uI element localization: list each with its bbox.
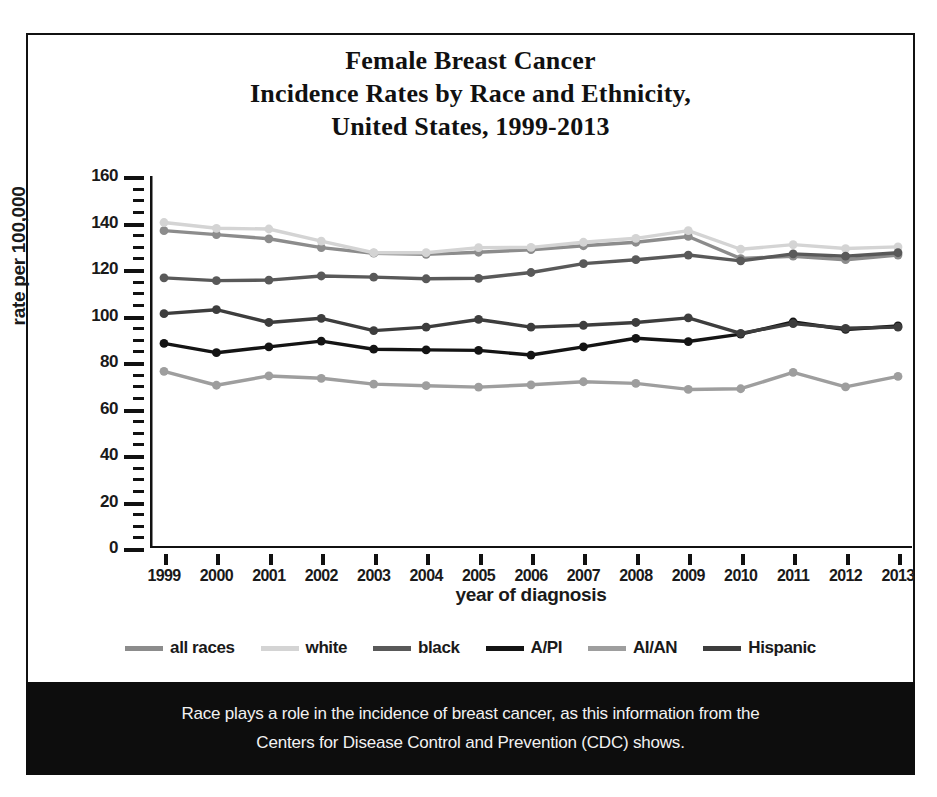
- x-tick-label: 2011: [777, 567, 809, 585]
- data-point: [317, 374, 326, 383]
- data-point: [474, 346, 483, 355]
- x-tick-mark: [374, 554, 378, 565]
- infographic-panel: Female Breast Cancer Incidence Rates by …: [0, 0, 937, 797]
- data-point: [579, 342, 588, 351]
- plot-area: [150, 176, 912, 548]
- x-tick-label: 2002: [305, 567, 338, 585]
- data-point: [684, 251, 693, 260]
- data-point: [684, 385, 693, 394]
- data-point: [631, 255, 640, 264]
- legend-label: Hispanic: [748, 638, 816, 658]
- data-point: [160, 273, 169, 282]
- legend-item-hispanic[interactable]: Hispanic: [703, 638, 816, 658]
- data-point: [736, 329, 745, 338]
- data-point: [789, 249, 798, 258]
- data-point: [684, 313, 693, 322]
- legend-swatch: [703, 646, 741, 651]
- data-point: [160, 218, 169, 227]
- y-tick-major: [124, 409, 144, 413]
- x-tick-mark: [164, 554, 168, 565]
- y-tick-minor: [133, 490, 144, 493]
- data-point: [369, 326, 378, 335]
- legend-item-a-pi[interactable]: A/PI: [486, 638, 562, 658]
- x-tick-mark: [479, 554, 483, 565]
- data-point: [579, 259, 588, 268]
- y-tick-major: [124, 502, 144, 506]
- legend-swatch: [373, 646, 411, 651]
- y-tick-minor: [133, 292, 144, 295]
- y-tick-minor: [133, 525, 144, 528]
- x-tick-mark: [321, 554, 325, 565]
- legend-label: AI/AN: [633, 638, 677, 658]
- data-point: [894, 372, 903, 381]
- chart-title-line-3: United States, 1999-2013: [26, 110, 915, 143]
- data-point: [317, 337, 326, 346]
- data-point: [264, 225, 273, 234]
- data-point: [631, 234, 640, 243]
- y-tick-label: 80: [78, 352, 118, 372]
- y-tick-minor: [133, 211, 144, 214]
- y-axis-label: rate per 100,000: [8, 156, 30, 356]
- data-point: [422, 323, 431, 332]
- y-tick-label: 120: [78, 259, 118, 279]
- x-tick-label: 2006: [514, 567, 547, 585]
- x-tick-label: 2012: [829, 567, 862, 585]
- y-tick-label: 140: [78, 213, 118, 233]
- data-point: [684, 226, 693, 235]
- x-tick-label: 2010: [724, 567, 757, 585]
- data-point: [841, 244, 850, 253]
- data-point: [264, 276, 273, 285]
- data-point: [474, 315, 483, 324]
- data-point: [736, 245, 745, 254]
- legend-label: black: [418, 638, 459, 658]
- data-point: [212, 348, 221, 357]
- chart-title-line-2: Incidence Rates by Race and Ethnicity,: [26, 77, 915, 110]
- y-tick-minor: [133, 304, 144, 307]
- x-tick-label: 2008: [619, 567, 652, 585]
- chart-title-line-1: Female Breast Cancer: [26, 44, 915, 77]
- data-point: [422, 274, 431, 283]
- y-tick-minor: [133, 327, 144, 330]
- caption-line-2: Centers for Disease Control and Preventi…: [256, 733, 684, 753]
- data-point: [369, 345, 378, 354]
- y-tick-major: [124, 316, 144, 320]
- data-point: [789, 240, 798, 249]
- legend-item-all-races[interactable]: all races: [125, 638, 234, 658]
- y-tick-minor: [133, 257, 144, 260]
- y-tick-major: [124, 176, 144, 180]
- x-tick-mark: [898, 554, 902, 565]
- x-axis-label: year of diagnosis: [150, 584, 912, 606]
- legend-item-ai-an[interactable]: AI/AN: [588, 638, 677, 658]
- legend-item-black[interactable]: black: [373, 638, 459, 658]
- data-point: [894, 323, 903, 332]
- legend-item-white[interactable]: white: [261, 638, 347, 658]
- caption-line-1: Race plays a role in the incidence of br…: [181, 704, 759, 724]
- data-point: [789, 368, 798, 377]
- legend-swatch: [261, 646, 299, 651]
- data-point: [894, 248, 903, 257]
- data-point: [736, 256, 745, 265]
- x-tick-mark: [846, 554, 850, 565]
- y-tick-minor: [133, 513, 144, 516]
- data-point: [160, 339, 169, 348]
- x-tick-mark: [426, 554, 430, 565]
- x-tick-mark: [269, 554, 273, 565]
- x-tick-label: 2009: [672, 567, 705, 585]
- legend-label: A/PI: [531, 638, 562, 658]
- data-point: [264, 234, 273, 243]
- y-tick-minor: [133, 420, 144, 423]
- data-point: [317, 314, 326, 323]
- y-tick-major: [124, 362, 144, 366]
- y-tick-label: 40: [78, 445, 118, 465]
- y-tick-minor: [133, 397, 144, 400]
- data-point: [422, 346, 431, 355]
- x-tick-label: 2013: [881, 567, 914, 585]
- data-point: [527, 380, 536, 389]
- chart-legend: all raceswhiteblackA/PIAI/ANHispanic: [26, 638, 915, 658]
- data-point: [474, 274, 483, 283]
- data-point: [841, 324, 850, 333]
- data-point: [527, 323, 536, 332]
- data-point: [264, 342, 273, 351]
- y-tick-minor: [133, 199, 144, 202]
- data-point: [631, 318, 640, 327]
